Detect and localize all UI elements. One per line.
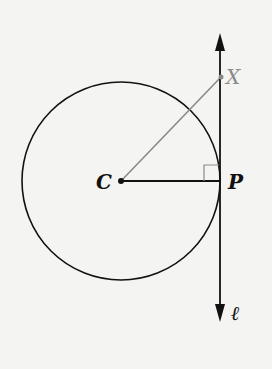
label-c: C (96, 170, 112, 194)
point-x (219, 75, 224, 80)
label-p: P (227, 170, 244, 194)
arrow-down-icon (215, 304, 225, 322)
label-line: ℓ (231, 301, 240, 325)
label-x: X (224, 65, 241, 89)
right-angle-marker (204, 165, 220, 181)
tangent-diagram: C P X ℓ (0, 0, 272, 369)
point-c (118, 178, 124, 184)
arrow-up-icon (215, 33, 225, 51)
